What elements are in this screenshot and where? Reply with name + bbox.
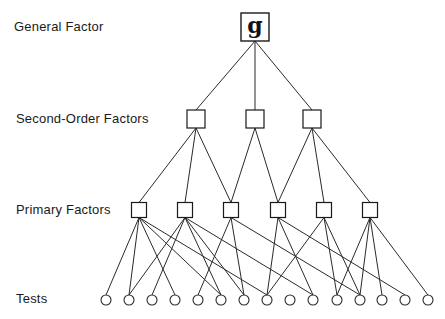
test-node-circle <box>124 295 134 305</box>
second-order-factor-box <box>187 110 205 128</box>
general-factor-symbol: g <box>247 12 262 38</box>
test-node-circle <box>216 295 226 305</box>
test-node-circle <box>262 295 272 305</box>
primary-factor-box <box>132 203 147 218</box>
test-node-circle <box>285 295 295 305</box>
test-node-circle <box>101 295 111 305</box>
edge-P5-T8 <box>267 218 324 296</box>
test-node-circle <box>423 295 433 305</box>
edges <box>106 41 428 295</box>
edge-g-S3 <box>255 41 312 110</box>
primary-factor-box <box>271 203 286 218</box>
test-node-circle <box>170 295 180 305</box>
test-node-circle <box>308 295 318 305</box>
test-node-circle <box>400 295 410 305</box>
test-node-circle <box>355 295 365 305</box>
edge-S1-P1 <box>139 128 196 203</box>
edge-P6-T13 <box>370 218 382 296</box>
test-node-circle <box>239 295 249 305</box>
edge-S2-P4 <box>255 128 278 203</box>
test-node-circle <box>147 295 157 305</box>
edge-P6-T15 <box>370 218 428 296</box>
test-node-circle <box>332 295 342 305</box>
primary-factor-box <box>317 203 332 218</box>
edge-S1-P3 <box>196 128 231 203</box>
second-order-factor-box <box>303 110 321 128</box>
edge-P2-T10 <box>185 218 313 296</box>
edge-S3-P4 <box>278 128 312 203</box>
test-node-circle <box>193 295 203 305</box>
primary-factor-box <box>363 203 378 218</box>
second-order-factor-box <box>246 110 264 128</box>
edge-P3-T7 <box>231 218 244 296</box>
factor-hierarchy-diagram: g <box>0 0 445 319</box>
edge-S2-P3 <box>231 128 255 203</box>
primary-factor-box <box>224 203 239 218</box>
edge-P4-T8 <box>267 218 278 296</box>
edge-S3-P6 <box>312 128 370 203</box>
edge-P5-T11 <box>324 218 337 296</box>
edge-S1-P2 <box>185 128 196 203</box>
test-node-circle <box>377 295 387 305</box>
edge-g-S1 <box>196 41 255 110</box>
edge-S3-P5 <box>312 128 324 203</box>
primary-factor-box <box>178 203 193 218</box>
